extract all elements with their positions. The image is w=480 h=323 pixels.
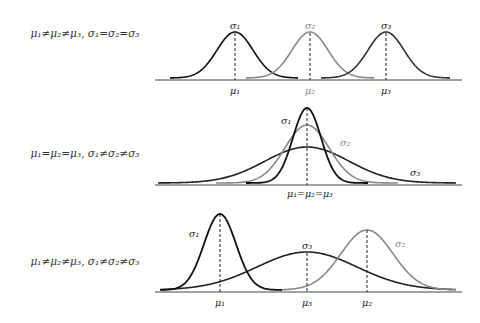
sigma-label-1: σ₁ <box>281 115 291 126</box>
mu-label-3: μ₃ <box>381 85 391 96</box>
sigma-label-1: σ₁ <box>230 20 240 31</box>
mu-label: μ₁=μ₂=μ₃ <box>287 188 333 199</box>
mu-label-1: μ₁ <box>215 297 225 308</box>
panel2: σ₁ σ₂ σ₃ μ₁=μ₂=μ₃ <box>155 108 462 199</box>
sigma-label-3: σ₃ <box>381 20 391 31</box>
panel1: σ₁ σ₂ σ₃ μ₁ μ₂ μ₃ <box>155 20 462 96</box>
mu-label-2: μ₂ <box>305 85 315 96</box>
distributions-diagram: σ₁ σ₂ σ₃ μ₁ μ₂ μ₃ σ₁ σ₂ σ₃ μ₁=μ₂=μ₃ σ₁ σ… <box>0 0 480 323</box>
sigma-label-2: σ₂ <box>305 20 315 31</box>
curve-1 <box>160 214 282 290</box>
mu-label-3: μ₃ <box>302 297 312 308</box>
curve-2 <box>280 230 456 290</box>
mu-label-1: μ₁ <box>230 85 240 96</box>
mu-label-2: μ₂ <box>362 297 372 308</box>
sigma-label-2: σ₂ <box>395 238 405 249</box>
sigma-label-1: σ₁ <box>189 228 199 239</box>
panel3: σ₁ σ₃ σ₂ μ₁ μ₃ μ₂ <box>155 214 462 308</box>
sigma-label-2: σ₂ <box>340 137 350 148</box>
curve-1 <box>170 32 298 78</box>
sigma-label-3: σ₃ <box>302 240 312 251</box>
curve-3 <box>160 252 456 290</box>
sigma-label-3: σ₃ <box>410 167 420 178</box>
